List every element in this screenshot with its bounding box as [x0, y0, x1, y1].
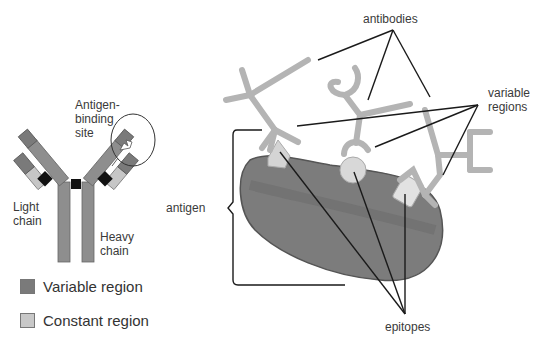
legend-label: Constant region: [43, 312, 149, 329]
constant-swatch: [20, 313, 35, 328]
heavy-chain-label-1: Heavy: [100, 230, 134, 244]
antibodies-label: antibodies: [363, 12, 418, 26]
variable-regions-label-1: variable: [488, 86, 530, 100]
legend-variable-region: Variable region: [20, 278, 143, 295]
diagram-canvas: [0, 0, 546, 352]
epitope-sphere: [340, 157, 366, 183]
light-chain-label-2: chain: [13, 214, 42, 228]
epitopes-label: epitopes: [385, 320, 430, 334]
legend-label: Variable region: [43, 278, 143, 295]
light-chain-label-1: Light: [13, 200, 39, 214]
variable-regions-label-2: regions: [488, 100, 527, 114]
antigen-binding-site-label-3: site: [75, 126, 94, 140]
variable-swatch: [20, 279, 35, 294]
antigen-binding-site-label-1: Antigen-: [75, 98, 120, 112]
antigen-binding-site-label-2: binding: [75, 112, 114, 126]
antigen-label: antigen: [166, 201, 205, 215]
legend-constant-region: Constant region: [20, 312, 149, 329]
heavy-chain-label-2: chain: [100, 244, 129, 258]
